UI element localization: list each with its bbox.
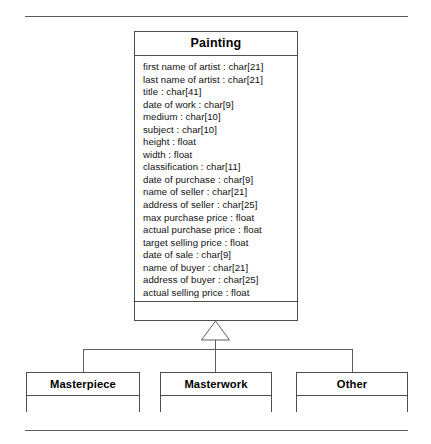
- attribute-row: title : char[41]: [143, 86, 297, 99]
- uml-class-diagram-canvas: Painting first name of artist : char[21]…: [0, 0, 431, 444]
- class-box-painting[interactable]: Painting first name of artist : char[21]…: [134, 31, 298, 321]
- class-name-other: Other: [297, 373, 407, 396]
- operation-compartment-painting: [135, 301, 297, 320]
- attribute-row: name of buyer : char[21]: [143, 262, 297, 275]
- attribute-row: width : float: [143, 149, 297, 162]
- attribute-row: address of buyer : char[25]: [143, 274, 297, 287]
- attribute-row: actual purchase price : float: [143, 224, 297, 237]
- class-name-masterwork: Masterwork: [161, 373, 271, 396]
- attribute-row: name of seller : char[21]: [143, 186, 297, 199]
- attribute-row: last name of artist : char[21]: [143, 74, 297, 87]
- class-box-masterwork[interactable]: Masterwork: [160, 372, 272, 412]
- class-box-masterpiece[interactable]: Masterpiece: [26, 372, 140, 412]
- class-name-painting: Painting: [135, 32, 297, 56]
- attribute-row: height : float: [143, 136, 297, 149]
- generalization-drop-line-masterwork: [215, 349, 216, 372]
- attribute-row: subject : char[10]: [143, 124, 297, 137]
- attribute-row: max purchase price : float: [143, 212, 297, 225]
- generalization-triangle-icon: [200, 320, 231, 341]
- class-box-other[interactable]: Other: [296, 372, 408, 412]
- attribute-row: address of seller : char[25]: [143, 199, 297, 212]
- bottom-divider-rule: [25, 430, 408, 431]
- attribute-row: classification : char[11]: [143, 161, 297, 174]
- attribute-row: date of sale : char[9]: [143, 249, 297, 262]
- attribute-compartment-other: [297, 396, 407, 412]
- generalization-bus-line: [83, 349, 353, 350]
- attribute-compartment-masterpiece: [27, 396, 139, 412]
- attribute-row: date of purchase : char[9]: [143, 174, 297, 187]
- attribute-row: medium : char[10]: [143, 111, 297, 124]
- generalization-drop-line-other: [352, 349, 353, 372]
- attribute-row: date of work : char[9]: [143, 99, 297, 112]
- attribute-row: first name of artist : char[21]: [143, 61, 297, 74]
- attribute-row: actual selling price : float: [143, 287, 297, 300]
- top-divider-rule: [25, 16, 408, 17]
- class-name-masterpiece: Masterpiece: [27, 373, 139, 396]
- attribute-row: target selling price : float: [143, 237, 297, 250]
- generalization-drop-line-masterpiece: [83, 349, 84, 372]
- attribute-compartment-masterwork: [161, 396, 271, 412]
- attribute-compartment-painting: first name of artist : char[21] last nam…: [135, 56, 297, 301]
